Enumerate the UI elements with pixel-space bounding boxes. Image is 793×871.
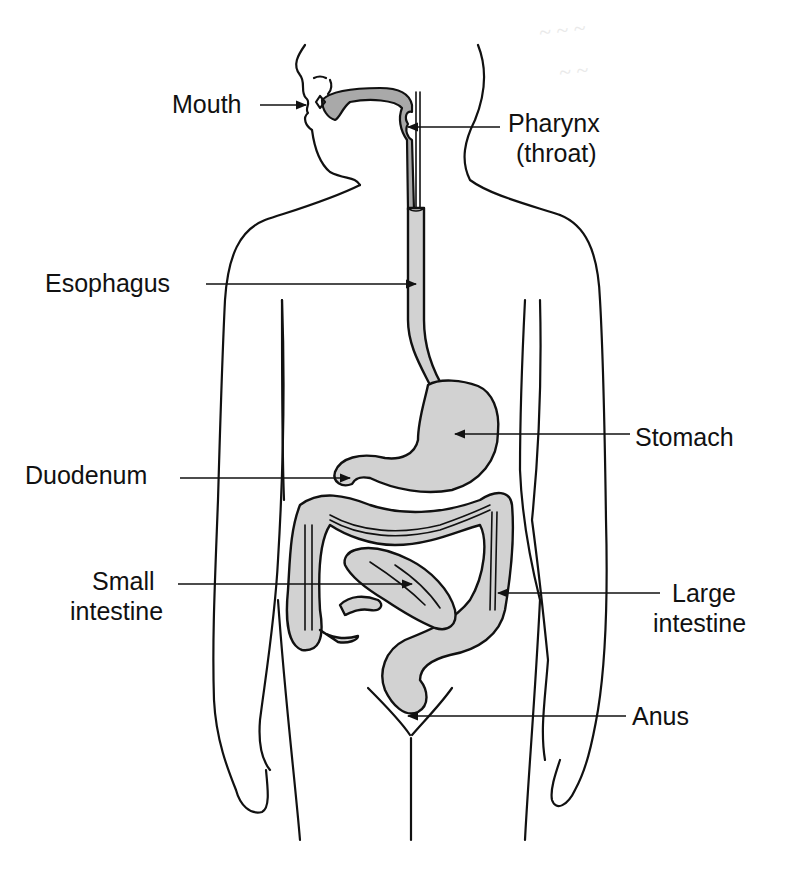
label-small-intestine-line2: intestine [70,597,163,625]
label-duodenum: Duodenum [25,461,350,489]
label-esophagus-text: Esophagus [45,269,170,297]
pharynx-organ [316,88,414,210]
nose-mark [328,80,331,94]
label-large-intestine-line1: Large [672,579,736,607]
left-inner-arm [259,300,283,770]
label-duodenum-text: Duodenum [25,461,147,489]
label-small-intestine-line1: Small [92,567,155,595]
label-stomach-text: Stomach [635,423,734,451]
label-esophagus: Esophagus [45,269,416,297]
right-leg [525,600,540,840]
label-anus: Anus [408,702,689,730]
digestive-system-diagram: ~ ~ ~ ~ ~ [0,0,793,871]
label-pharynx-line2: (throat) [516,139,597,167]
right-shoulder [552,215,607,806]
label-mouth-text: Mouth [172,90,241,118]
svg-text:~ ~ ~: ~ ~ ~ [538,15,587,45]
label-anus-text: Anus [632,702,689,730]
label-mouth: Mouth [172,90,306,118]
label-large-intestine-line2: intestine [653,609,746,637]
label-pharynx-line1: Pharynx [508,109,600,137]
label-pharynx: Pharynx (throat) [408,109,600,167]
small-intestine-organ [340,548,456,629]
label-large-intestine: Large intestine [498,579,746,637]
eye-mark [314,77,326,79]
stomach-organ [334,381,498,492]
esophagus-organ [408,92,446,392]
bleed-through-text: ~ ~ ~ ~ ~ [538,15,590,85]
svg-text:~ ~: ~ ~ [558,57,590,85]
